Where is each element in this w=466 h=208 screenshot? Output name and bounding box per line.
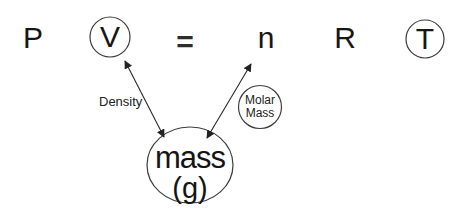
molar-mass-label-line2: Mass	[245, 107, 275, 120]
volume-symbol: V	[100, 22, 120, 52]
moles-symbol: n	[258, 23, 275, 53]
diagram-lines-layer	[0, 0, 466, 208]
mass-label: mass	[155, 142, 225, 173]
molar-mass-label: Molar Mass	[245, 94, 275, 120]
density-label: Density	[99, 95, 142, 108]
ideal-gas-law-diagram: P V = n R T Density Molar Mass mass (g)	[0, 0, 466, 208]
temperature-symbol: T	[416, 24, 434, 54]
pressure-symbol: P	[23, 23, 43, 53]
gas-constant-symbol: R	[334, 23, 356, 53]
equals-sign: =	[176, 27, 194, 57]
mass-units-label: (g)	[172, 174, 207, 203]
